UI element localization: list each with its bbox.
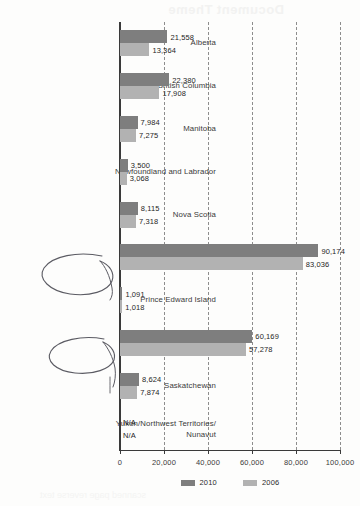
category-label: Nova Scotia [173, 210, 216, 220]
bar-value-label: 22,380 [172, 76, 196, 85]
bar-row: Ontario90,17483,036 [120, 236, 340, 279]
category-label-line: Alberta [191, 38, 216, 47]
bar-row: Yukon/Northwest Territories/NunavutN/AN/… [120, 407, 340, 450]
category-label-line: Saskatchewan [164, 381, 216, 390]
bar-2006 [120, 386, 137, 399]
x-axis-tick [340, 450, 341, 454]
bar-value-label: 7,318 [139, 217, 158, 226]
x-axis-tick-label: 20,000 [152, 458, 176, 467]
bar-row: Manitoba7,9847,275 [120, 108, 340, 151]
bar-value-label: 7,275 [139, 131, 158, 140]
chart-legend: 20102006 [120, 478, 340, 487]
bar-row: Newfoundland and Labrador3,5003,068 [120, 150, 340, 193]
bleed-through-text-top: Document Theme [168, 2, 284, 17]
chart-page: Document Theme scanned page reverse text… [0, 0, 360, 506]
bar-2010 [120, 287, 122, 300]
x-axis-tick-label: 40,000 [196, 458, 220, 467]
bar-value-label: 57,278 [249, 345, 273, 354]
bar-2006 [120, 257, 303, 270]
bar-value-label: 17,908 [162, 89, 186, 98]
x-axis-tick [164, 450, 165, 454]
bar-value-label: 7,874 [140, 388, 159, 397]
bar-2006 [120, 172, 127, 185]
legend-label: 2010 [200, 478, 218, 487]
bar-value-label: 60,169 [255, 332, 279, 341]
bar-2006 [120, 86, 159, 99]
bar-row: Nova Scotia8,1157,318 [120, 193, 340, 236]
category-label-line: Nunavut [186, 430, 216, 439]
x-axis-tick-label: 60,000 [240, 458, 264, 467]
bar-row: British Columbia22,38017,908 [120, 65, 340, 108]
category-label-line: Manitoba [183, 124, 216, 133]
bar-2006 [120, 215, 136, 228]
bar-2010 [120, 73, 169, 86]
bar-value-label: 21,558 [170, 33, 194, 42]
x-axis-tick [296, 450, 297, 454]
bar-2010 [120, 330, 252, 343]
bar-value-label: 8,624 [142, 375, 161, 384]
category-label-line: Nova Scotia [173, 210, 216, 219]
legend-item-2010[interactable]: 2010 [181, 478, 218, 487]
x-axis-tick-label: 0 [118, 458, 122, 467]
bar-value-label: 1,091 [125, 290, 144, 299]
legend-swatch-icon [243, 480, 257, 486]
bar-row: Québec60,16957,278 [120, 322, 340, 365]
bar-2010 [120, 373, 139, 386]
gridline [340, 22, 341, 450]
bar-value-label: N/A [123, 431, 136, 440]
handwritten-ellipse-quebec [44, 335, 130, 395]
legend-swatch-icon [181, 480, 195, 486]
x-axis-tick-label: 100,000 [326, 458, 355, 467]
bar-2006 [120, 343, 246, 356]
x-axis-tick [252, 450, 253, 454]
bar-2006 [120, 129, 136, 142]
bar-value-label: 83,036 [306, 260, 330, 269]
x-axis-tick-label: 80,000 [284, 458, 308, 467]
x-axis-line [119, 450, 341, 451]
bar-2006 [120, 300, 122, 313]
x-axis-tick [120, 450, 121, 454]
legend-label: 2006 [262, 478, 280, 487]
bar-row: Prince Edward Island1,0911,018 [120, 279, 340, 322]
bar-value-label: 3,500 [131, 161, 150, 170]
category-label: Alberta [191, 38, 216, 48]
legend-item-2006[interactable]: 2006 [243, 478, 280, 487]
bar-2010 [120, 159, 128, 172]
bleed-through-text-bottom: scanned page reverse text [40, 490, 146, 500]
bar-2010 [120, 116, 138, 129]
bar-value-label: 90,174 [321, 247, 345, 256]
bar-value-label: 3,068 [130, 174, 149, 183]
bar-value-label: 1,018 [125, 303, 144, 312]
bar-value-label: 7,984 [141, 118, 160, 127]
bar-2006 [120, 43, 149, 56]
category-label: Prince Edward Island [140, 295, 216, 305]
bar-2010 [120, 244, 318, 257]
category-label-line: Prince Edward Island [140, 295, 216, 304]
category-label: Manitoba [183, 124, 216, 134]
x-axis-tick [208, 450, 209, 454]
handwritten-ellipse-ontario [38, 250, 128, 302]
bar-value-label: N/A [123, 418, 136, 427]
bar-value-label: 13,364 [152, 46, 176, 55]
bar-2010 [120, 202, 138, 215]
bar-row: Saskatchewan8,6247,874 [120, 364, 340, 407]
bar-2010 [120, 30, 167, 43]
category-label: Saskatchewan [164, 381, 216, 391]
bar-value-label: 8,115 [141, 204, 160, 213]
bar-row: Alberta21,55813,364 [120, 22, 340, 65]
bar-chart-plot-area: Alberta21,55813,364British Columbia22,38… [120, 22, 340, 450]
